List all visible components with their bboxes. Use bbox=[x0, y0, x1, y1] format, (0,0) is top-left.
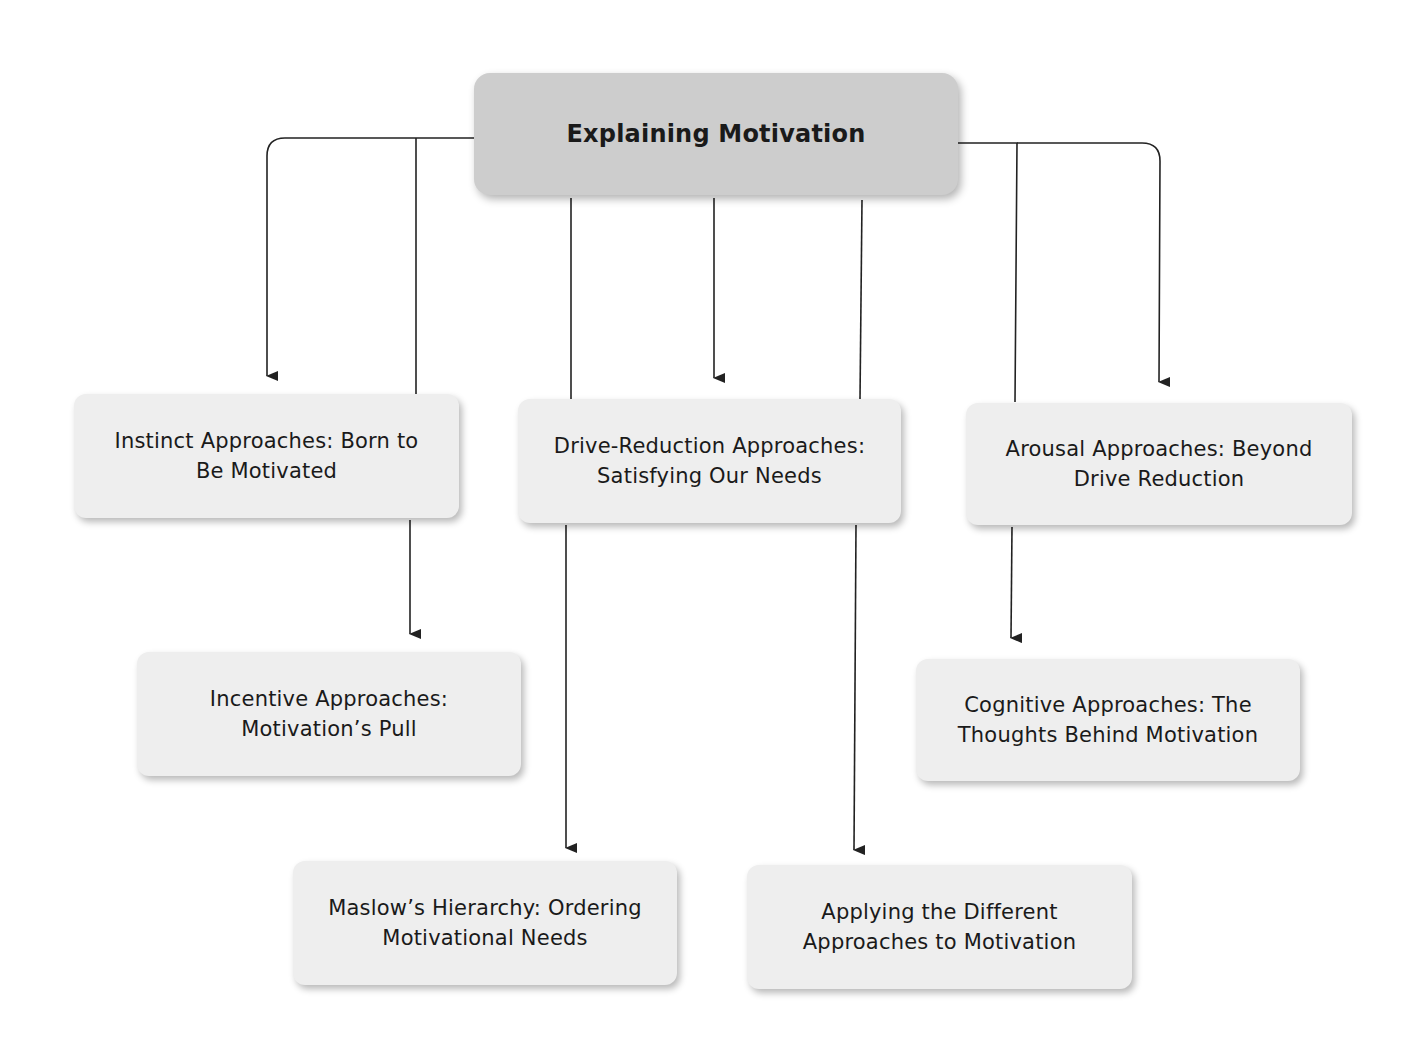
node-label: Drive-Reduction Approaches: Satisfying O… bbox=[554, 431, 865, 491]
edge-root-cognitive bbox=[955, 143, 1017, 402]
node-label: Maslow’s Hierarchy: Ordering Motivationa… bbox=[328, 893, 642, 953]
node-arousal-approaches: Arousal Approaches: Beyond Drive Reducti… bbox=[966, 403, 1352, 525]
node-label: Applying the Different Approaches to Mot… bbox=[803, 897, 1076, 957]
node-maslows-hierarchy: Maslow’s Hierarchy: Ordering Motivationa… bbox=[293, 861, 677, 985]
edge-root-instinct bbox=[267, 138, 476, 376]
node-label: Arousal Approaches: Beyond Drive Reducti… bbox=[1006, 434, 1313, 494]
node-instinct-approaches: Instinct Approaches: Born to Be Motivate… bbox=[74, 394, 459, 518]
node-cognitive-approaches: Cognitive Approaches: The Thoughts Behin… bbox=[916, 659, 1300, 781]
edge-root-applying bbox=[860, 200, 862, 400]
node-label: Incentive Approaches: Motivation’s Pull bbox=[210, 684, 448, 744]
root-node-explaining-motivation: Explaining Motivation bbox=[474, 73, 958, 195]
node-applying-approaches: Applying the Different Approaches to Mot… bbox=[747, 865, 1132, 989]
root-node-label: Explaining Motivation bbox=[566, 119, 865, 149]
node-incentive-approaches: Incentive Approaches: Motivation’s Pull bbox=[137, 652, 521, 776]
edge-root-arousal bbox=[1017, 143, 1160, 382]
node-label: Instinct Approaches: Born to Be Motivate… bbox=[115, 426, 419, 486]
node-drive-reduction-approaches: Drive-Reduction Approaches: Satisfying O… bbox=[518, 399, 901, 523]
node-label: Cognitive Approaches: The Thoughts Behin… bbox=[958, 690, 1258, 750]
